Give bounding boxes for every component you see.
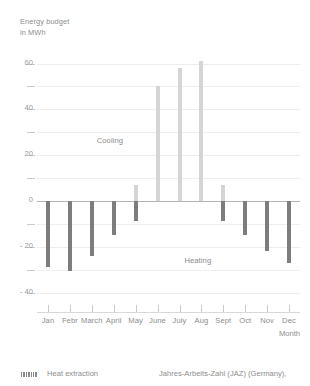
hatched-bar-swatch	[21, 372, 38, 377]
gridline-major	[37, 247, 300, 248]
y-axis-tick-label: 60	[25, 59, 33, 67]
annotation-heating: Heating	[184, 256, 211, 265]
x-axis-line	[37, 312, 300, 313]
y-tick-dash-minor	[27, 224, 35, 225]
x-axis-tick	[245, 305, 246, 312]
x-axis-tick	[267, 305, 268, 312]
y-axis-title-line1: Energy budget	[20, 17, 69, 26]
bar-heating-oct	[243, 201, 247, 235]
source-note: Jahres-Arbeits-Zahl (JAZ) (Germany),	[159, 369, 286, 379]
x-axis-label-jan: Jan	[42, 316, 55, 325]
gridline-minor	[37, 178, 300, 179]
gridline-major	[37, 155, 300, 156]
zero-line	[37, 201, 300, 202]
x-axis-label-may: May	[128, 316, 143, 325]
x-axis-label-sept: Sept	[215, 316, 231, 325]
y-axis-tick-label: - 40	[20, 288, 33, 296]
bar-cooling-aug	[199, 61, 203, 201]
x-axis-label-dec: Dec	[282, 316, 296, 325]
bar-heating-febr	[68, 201, 72, 271]
x-axis-tick	[223, 305, 224, 312]
bar-heating-may	[134, 201, 138, 222]
x-axis-tick	[180, 305, 181, 312]
bar-cooling-sept	[221, 185, 225, 201]
gridline-minor	[37, 270, 300, 271]
x-axis-tick	[48, 305, 49, 312]
x-axis-label-march: March	[81, 316, 103, 325]
x-axis-tick	[92, 305, 93, 312]
gridline-minor	[37, 132, 300, 133]
x-axis-label-aug: Aug	[194, 316, 208, 325]
energy-budget-chart-figure: Energy budget in MWh 6040200- 20- 40 Coo…	[0, 0, 310, 386]
bar-heating-sept	[221, 201, 225, 222]
y-axis-tick-label: 40	[25, 104, 33, 112]
x-axis-label-june: June	[149, 316, 166, 325]
bar-heating-dec	[287, 201, 291, 263]
x-axis-tick	[114, 305, 115, 312]
y-axis-tick-label: 20	[25, 150, 33, 158]
x-axis-tick	[70, 305, 71, 312]
gridline-minor	[37, 224, 300, 225]
x-axis-label-febr: Febr	[62, 316, 78, 325]
annotation-cooling: Cooling	[97, 136, 123, 145]
bar-heating-nov	[265, 201, 269, 251]
x-axis-label-nov: Nov	[260, 316, 274, 325]
x-axis-label-oct: Oct	[239, 316, 251, 325]
chart-legend: Heat extraction Jahres-Arbeits-Zahl (JAZ…	[0, 368, 310, 386]
bar-heating-jan	[46, 201, 50, 267]
x-axis-tick	[136, 305, 137, 312]
y-tick-dash-minor	[27, 178, 35, 179]
y-axis-title: Energy budget in MWh	[20, 17, 69, 38]
y-tick-dash-minor	[27, 132, 35, 133]
bar-heating-march	[90, 201, 94, 256]
gridline-minor	[37, 86, 300, 87]
y-axis-title-line2: in MWh	[20, 28, 69, 39]
bar-heating-april	[112, 201, 116, 235]
legend-item-label: Heat extraction	[47, 369, 98, 379]
x-axis-label-april: April	[106, 316, 122, 325]
bar-cooling-july	[178, 68, 182, 201]
plot-area: 6040200- 20- 40 CoolingHeating	[37, 52, 300, 304]
gridline-major	[37, 293, 300, 294]
gridline-major	[37, 64, 300, 65]
y-axis-tick-label: - 20	[20, 242, 33, 250]
y-tick-dash-minor	[27, 270, 35, 271]
y-axis-tick-label: 0	[29, 196, 33, 204]
bar-cooling-may	[134, 185, 138, 201]
x-axis-tick	[158, 305, 159, 312]
x-axis-tick	[289, 305, 290, 312]
y-tick-dash-minor	[27, 86, 35, 87]
x-axis-tick	[201, 305, 202, 312]
gridline-major	[37, 109, 300, 110]
x-axis-label-july: July	[173, 316, 187, 325]
bar-cooling-june	[156, 86, 160, 201]
x-axis-title: Month	[279, 329, 300, 338]
